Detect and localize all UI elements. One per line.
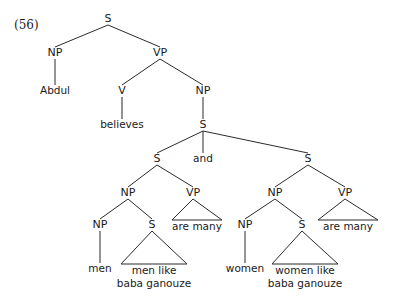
tree-triangle [121, 231, 187, 264]
tree-node-s-root: S [105, 12, 112, 25]
tree-leaf-text: are many [323, 220, 373, 232]
tree-branch [122, 59, 160, 85]
tree-leaf-and: and [193, 152, 213, 164]
tree-node-np-subj: NP [48, 46, 63, 59]
tree-leaf-text: are many [172, 220, 222, 232]
tree-node-s-men-rel: S [149, 218, 156, 231]
tree-leaf-abdul: Abdul [40, 84, 70, 96]
tree-branch [275, 165, 308, 187]
tree-branch [160, 59, 203, 85]
tree-branch [157, 131, 203, 153]
tree-branch [157, 165, 193, 187]
tree-branch [275, 199, 302, 219]
tree-node-vp-main: VP [153, 46, 168, 59]
tree-leaf-text: baba ganouze [117, 277, 191, 289]
tree-triangle [272, 231, 338, 264]
tree-branch [128, 199, 152, 219]
tree-node-s-women-rel: S [299, 218, 306, 231]
tree-branch [55, 25, 108, 47]
tree-node-s-left: S [154, 152, 161, 165]
tree-leaf-women: women [226, 262, 264, 274]
tree-node-vp-right: VP [338, 186, 353, 199]
tree-branch [128, 165, 157, 187]
tree-triangle [172, 199, 222, 220]
tree-leaf-text: baba ganouze [268, 277, 342, 289]
tree-leaf-men: men [88, 262, 111, 274]
tree-node-np-men: NP [93, 218, 108, 231]
tree-node-np-comp: NP [196, 84, 211, 97]
tree-branch [203, 131, 308, 153]
tree-branch [245, 199, 275, 219]
tree-node-s-coord: S [200, 118, 207, 131]
tree-leaf-believes: believes [100, 118, 144, 130]
syntax-tree-diagram: SNPVPAbdulVNPbelievesSSandSNPVPNPVPNPSNP… [0, 0, 397, 305]
figure-canvas: (56) SNPVPAbdulVNPbelievesSSandSNPVPNPVP… [0, 0, 397, 305]
tree-node-vp-left: VP [186, 186, 201, 199]
tree-node-v-believes: V [118, 84, 126, 97]
tree-branch [108, 25, 160, 47]
tree-node-np-right: NP [268, 186, 283, 199]
tree-branch [308, 165, 345, 187]
tree-node-s-right: S [305, 152, 312, 165]
tree-leaf-text: women like [275, 264, 335, 276]
tree-branch [100, 199, 128, 219]
tree-node-np-left: NP [121, 186, 136, 199]
tree-triangle [318, 199, 378, 220]
tree-node-np-women: NP [238, 218, 253, 231]
tree-leaf-text: men like [132, 264, 177, 276]
